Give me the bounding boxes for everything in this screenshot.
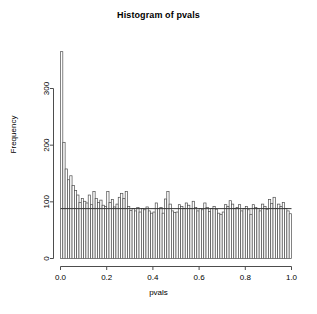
histogram-bar bbox=[289, 214, 291, 259]
y-axis-tick-label: 200 bbox=[42, 138, 51, 152]
x-axis: 0.00.20.40.60.81.0 bbox=[55, 267, 298, 282]
histogram-plot: Histogram of pvals 0100200300 0.00.20.40… bbox=[0, 0, 317, 314]
y-axis-tick-label: 100 bbox=[42, 195, 51, 209]
y-axis-tick-label: 300 bbox=[42, 81, 51, 95]
x-axis-tick-label: 0.2 bbox=[101, 273, 113, 282]
y-axis-title: Frequency bbox=[9, 100, 18, 170]
x-axis-tick-label: 0.6 bbox=[194, 273, 206, 282]
plot-canvas: 0100200300 0.00.20.40.60.81.0 bbox=[0, 0, 317, 314]
x-axis-tick-label: 0.8 bbox=[240, 273, 252, 282]
x-axis-tick-label: 0.4 bbox=[147, 273, 159, 282]
y-axis-tick-label: 0 bbox=[42, 256, 51, 261]
y-axis: 0100200300 bbox=[42, 81, 54, 260]
bars-group bbox=[61, 52, 292, 259]
x-axis-tick-label: 0.0 bbox=[55, 273, 67, 282]
x-axis-tick-label: 1.0 bbox=[286, 273, 298, 282]
x-axis-title: pvals bbox=[0, 288, 317, 297]
